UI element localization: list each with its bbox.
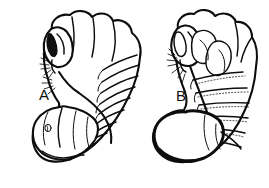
larvae-illustration: A xyxy=(0,0,269,188)
panel-label-a: A xyxy=(39,86,49,103)
figure-plate: A xyxy=(0,0,269,188)
panel-label-b: B xyxy=(176,87,186,104)
